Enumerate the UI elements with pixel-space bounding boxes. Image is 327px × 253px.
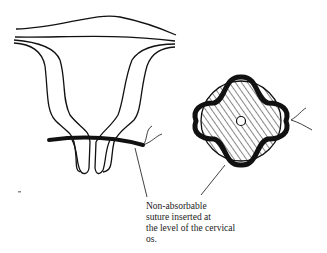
- uterus-drawing: [14, 16, 176, 173]
- caption-line-3: the level of the cervical: [146, 223, 235, 234]
- cervix-cross-section: [195, 77, 312, 165]
- speck: [18, 191, 21, 193]
- figure: Non-absorbable suture inserted at the le…: [0, 0, 327, 253]
- pointer-line-right: [201, 165, 225, 195]
- caption: Non-absorbable suture inserted at the le…: [146, 201, 235, 245]
- pointer-line-left: [135, 148, 147, 197]
- cervical-os: [237, 117, 246, 126]
- suture-tail-left: [143, 126, 162, 145]
- caption-line-1: Non-absorbable: [146, 201, 235, 212]
- caption-line-2: suture inserted at: [146, 212, 235, 223]
- caption-line-4: os.: [146, 234, 235, 245]
- suture-tail-right: [291, 108, 312, 130]
